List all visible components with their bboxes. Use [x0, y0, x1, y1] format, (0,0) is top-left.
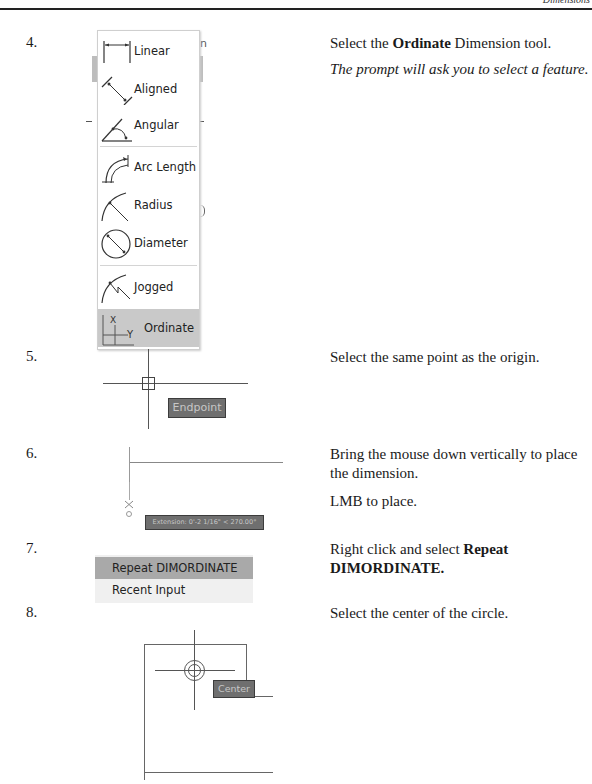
- menu-item-arc-length[interactable]: Arc Length: [98, 149, 199, 185]
- jogged-icon: [100, 271, 134, 305]
- cursor-marker-icon: [123, 500, 135, 518]
- rectangle-bottom-edge: [144, 772, 273, 773]
- center-tooltip: Center: [213, 680, 255, 698]
- step-6-instruction: Bring the mouse down vertically to place…: [330, 445, 592, 483]
- emphasis: Ordinate: [392, 35, 450, 51]
- crosshair-horizontal: [103, 383, 248, 384]
- menu-item-label: Ordinate: [144, 321, 194, 335]
- menu-item-label: Diameter: [134, 236, 188, 250]
- menu-item-angular[interactable]: Angular: [98, 107, 199, 143]
- center-snap-marker: [188, 664, 201, 677]
- step-6-instruction-2: LMB to place.: [330, 492, 592, 511]
- dimension-dropdown: Linear Aligned Angular: [97, 30, 200, 350]
- angular-dimension-icon: [100, 109, 134, 143]
- background-tick: [86, 121, 92, 122]
- rectangle-left-edge: [144, 644, 145, 780]
- radius-icon: [100, 189, 134, 223]
- ordinate-y-letter: Y: [126, 329, 134, 340]
- step-4-instruction: Select the Ordinate Dimension tool.: [330, 34, 592, 53]
- menu-item-label: Radius: [134, 198, 173, 212]
- aligned-dimension-icon: [100, 73, 134, 105]
- text: Select the: [330, 35, 392, 51]
- step-7-instruction: Right click and select Repeat DIMORDINAT…: [330, 540, 592, 578]
- menu-item-ordinate[interactable]: X Y Ordinate: [98, 309, 199, 347]
- text: Right click and select: [330, 541, 463, 557]
- text: Dimension tool.: [451, 35, 551, 51]
- header-rule: [0, 0, 592, 10]
- extension-line-vertical: [129, 447, 130, 482]
- rectangle-top-edge: [144, 644, 247, 645]
- context-menu-item-recent-input[interactable]: Recent Input: [95, 579, 253, 601]
- context-menu: Repeat DIMORDINATE Recent Input: [95, 555, 253, 603]
- endpoint-snap-marker: [142, 377, 155, 390]
- step-number: 4.: [26, 34, 37, 51]
- menu-item-aligned[interactable]: Aligned: [98, 71, 199, 107]
- running-head: Dimensions: [543, 0, 590, 5]
- menu-item-label: Jogged: [134, 280, 173, 294]
- step-4-note: The prompt will ask you to select a feat…: [330, 61, 588, 77]
- context-menu-item-repeat-dimordinate[interactable]: Repeat DIMORDINATE: [95, 557, 253, 579]
- menu-item-linear[interactable]: Linear: [98, 33, 199, 69]
- menu-item-jogged[interactable]: Jogged: [98, 269, 199, 305]
- ordinate-icon: X Y: [100, 311, 134, 347]
- background-fragment: n: [200, 37, 207, 50]
- menu-item-label: Aligned: [134, 82, 177, 96]
- background-fragment: [200, 205, 205, 217]
- linear-dimension-icon: [100, 35, 134, 67]
- extension-line-dashed: [129, 482, 130, 500]
- menu-separator: [100, 265, 197, 266]
- endpoint-tooltip: Endpoint: [168, 398, 226, 418]
- ordinate-x-letter: X: [110, 315, 116, 325]
- menu-item-label: Linear: [134, 44, 170, 58]
- menu-separator: [100, 146, 197, 147]
- step-5-instruction: Select the same point as the origin.: [330, 348, 592, 367]
- extension-line-horizontal: [130, 462, 283, 463]
- extension-tooltip: Extension: 0'-2 1/16" < 270.00°: [145, 515, 264, 530]
- step-8-instruction: Select the center of the circle.: [330, 604, 592, 623]
- step-number: 6.: [26, 445, 37, 462]
- step-number: 7.: [26, 540, 37, 557]
- step-number: 8.: [26, 604, 37, 621]
- menu-item-diameter[interactable]: Diameter: [98, 225, 199, 261]
- diameter-icon: [100, 227, 134, 261]
- menu-item-label: Arc Length: [134, 160, 196, 174]
- arc-length-icon: [100, 151, 134, 185]
- menu-item-radius[interactable]: Radius: [98, 187, 199, 223]
- step-number: 5.: [26, 348, 37, 365]
- menu-item-label: Angular: [134, 118, 179, 132]
